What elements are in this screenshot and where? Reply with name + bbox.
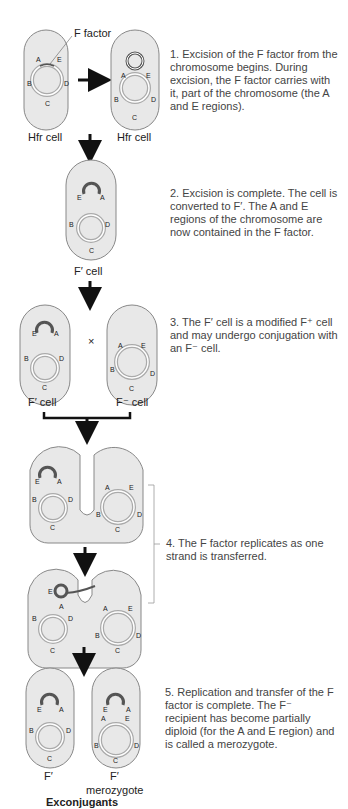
svg-text:A: A [118,342,123,349]
svg-text:A: A [59,706,64,713]
svg-text:D: D [66,727,71,734]
step2-caption: 2. Excision is complete. The cell is con… [170,187,338,239]
step5-fprime-exconjugant: EA BD C [26,668,74,768]
step5-caption: 5. Replication and transfer of the F fac… [165,686,335,751]
svg-text:A: A [36,56,41,63]
svg-text:B: B [110,366,115,373]
svg-text:A: A [54,330,59,337]
svg-text:C: C [50,524,55,531]
svg-text:B: B [96,511,101,518]
step4-conjugating-pair-a: EA BD C AE BD C [30,447,143,543]
svg-text:E: E [32,330,37,337]
svg-text:A: A [103,605,108,612]
svg-text:E: E [129,484,134,491]
svg-text:E: E [103,706,108,713]
svg-text:C: C [89,247,94,254]
step2-fprime-cell: EA BD C [66,160,116,260]
svg-text:A: A [126,706,131,713]
fprime-exconjugant-label: F′ [44,770,53,782]
svg-text:C: C [115,526,120,533]
svg-text:D: D [105,221,110,228]
step5-merozygote: EA AE BD C [92,668,140,768]
svg-text:B: B [29,727,34,734]
step3-fprime-cell: EA BD C [20,305,70,405]
svg-text:E: E [48,588,53,595]
svg-text:E: E [146,72,151,79]
cross-symbol: × [88,335,94,347]
step3-fminus-cell: AE BD C [107,305,157,405]
svg-text:B: B [32,496,37,503]
svg-text:E: E [125,715,130,722]
svg-text:A: A [121,72,126,79]
svg-text:B: B [27,80,32,87]
svg-text:C: C [132,114,137,121]
svg-text:B: B [24,355,29,362]
fprime-cell-label-step2: F′ cell [74,265,102,277]
svg-text:E: E [35,478,40,485]
svg-text:A: A [57,478,62,485]
svg-text:E: E [77,194,82,201]
svg-text:D: D [136,632,141,639]
step1-hfr-cell-right: AE BD C [111,30,159,130]
svg-text:E: E [128,605,133,612]
svg-text:B: B [32,615,37,622]
svg-text:C: C [113,757,118,764]
fminus-cell-label-step3: F⁻ cell [116,396,148,408]
merozygote-fprime-label: F′ [110,770,119,782]
step4-caption: 4. The F factor replicates as one strand… [166,537,336,563]
svg-text:D: D [137,511,142,518]
svg-text:A: A [59,603,64,610]
hfr-cell-label-1: Hfr cell [28,131,62,143]
merozygote-label: merozygote [86,784,143,796]
svg-text:D: D [68,615,73,622]
step1-hfr-cell-left: AE BD C [24,30,72,130]
svg-text:D: D [151,96,156,103]
svg-text:C: C [115,647,120,654]
svg-text:C: C [47,755,52,762]
svg-text:C: C [129,385,134,392]
svg-text:E: E [37,706,42,713]
svg-text:C: C [42,384,47,391]
svg-text:D: D [59,355,64,362]
svg-text:B: B [69,221,74,228]
svg-text:D: D [64,80,69,87]
svg-text:D: D [150,370,155,377]
step4-bracket [148,485,154,603]
fprime-cell-label-step3: F′ cell [28,396,56,408]
svg-text:C: C [45,100,50,107]
svg-text:E: E [141,342,146,349]
hfr-cell-label-2: Hfr cell [117,131,151,143]
svg-text:D: D [134,742,139,749]
svg-text:D: D [68,496,73,503]
step3-caption: 3. The F′ cell is a modified F⁺ cell and… [170,316,338,355]
svg-text:A: A [100,194,105,201]
svg-text:B: B [95,632,100,639]
svg-text:B: B [94,742,99,749]
f-factor-label: F factor [74,27,112,39]
svg-text:E: E [57,56,62,63]
merge-bracket [44,412,130,418]
exconjugants-label: Exconjugants [46,796,118,808]
svg-text:C: C [50,647,55,654]
svg-text:A: A [105,484,110,491]
step1-caption: 1. Excision of the F factor from the chr… [170,48,338,113]
svg-text:A: A [101,715,106,722]
svg-text:B: B [114,96,119,103]
